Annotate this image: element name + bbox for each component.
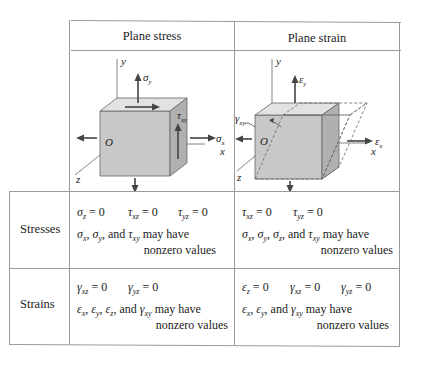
nonzero-statement-cont: nonzero values (156, 319, 228, 331)
strains-plane-strain-cell: εz = 0 γxz = 0 γyz = 0 εx, εy, and γxy m… (235, 269, 399, 344)
zero-condition: τxz = 0 (128, 206, 158, 221)
strains-plane-stress-cell: γxz = 0 γyz = 0 εx, εy, εz, and γxy may … (70, 269, 234, 344)
svg-text:O: O (105, 136, 113, 148)
svg-text:z: z (75, 173, 81, 185)
svg-text:εx: εx (375, 135, 383, 150)
table-left-border (9, 191, 10, 344)
zero-condition: γyz = 0 (128, 281, 158, 296)
nonzero-statement: εx, εy, and γxy may have (242, 303, 352, 318)
zero-condition: τxz = 0 (242, 206, 272, 221)
stresses-plane-strain-cell: τxz = 0 τyz = 0 σx, σy, σz, and τxy may … (235, 192, 399, 268)
table-top-border (71, 20, 401, 23)
row-label-stresses: Stresses (20, 222, 60, 237)
svg-text:x: x (370, 145, 376, 157)
zero-condition: γxz = 0 (290, 281, 320, 296)
header-plane-strain: Plane strain (235, 31, 399, 46)
svg-text:z: z (236, 171, 242, 183)
table-right-border (399, 22, 400, 346)
nonzero-statement-cont: nonzero values (317, 319, 389, 331)
svg-text:σy: σy (143, 71, 152, 86)
nonzero-statement-cont: nonzero values (144, 244, 216, 256)
zero-condition: εz = 0 (242, 281, 269, 296)
zero-condition: γyz = 0 (341, 281, 371, 296)
nonzero-statement: σx, σy, and τxy may have (77, 228, 189, 243)
plane-strain-cube-diagram: y εy γxy εx O x z (235, 51, 399, 191)
svg-text:x: x (219, 145, 225, 157)
svg-text:εy: εy (299, 73, 307, 88)
table-bottom-border (9, 344, 400, 347)
row-label-strains: Strains (20, 297, 55, 312)
y-axis-label: y (120, 55, 126, 67)
zero-condition: γxz = 0 (77, 281, 107, 296)
nonzero-statement-cont: nonzero values (321, 244, 393, 256)
zero-condition: τyz = 0 (178, 206, 208, 221)
zero-condition: τyz = 0 (293, 206, 323, 221)
header-plane-stress: Plane stress (70, 29, 234, 44)
svg-text:y: y (275, 55, 281, 67)
nonzero-statement: εx, εy, εz, and γxy may have (77, 303, 201, 318)
stresses-plane-stress-cell: σz = 0 τxz = 0 τyz = 0 σx, σy, and τxy m… (70, 192, 234, 268)
svg-text:O: O (260, 135, 268, 147)
svg-text:γxy: γxy (235, 112, 246, 127)
zero-condition: σz = 0 (77, 206, 105, 221)
plane-stress-cube-diagram: y σy τxy σx O x z (70, 51, 234, 191)
nonzero-statement: σx, σy, σz, and τxy may have (242, 228, 369, 243)
